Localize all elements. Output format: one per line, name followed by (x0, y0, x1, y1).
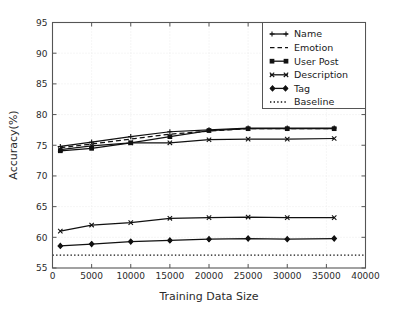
data-point-marker (284, 59, 288, 63)
y-tick-label: 80 (36, 110, 48, 120)
y-tick-label: 55 (36, 263, 47, 273)
x-tick-label: 15000 (156, 271, 185, 281)
legend-label: Tag (293, 83, 310, 94)
y-tick-label: 85 (36, 79, 47, 89)
chart-legend: NameEmotionUser PostDescriptionTagBaseli… (263, 23, 366, 109)
accuracy-vs-training-size-line-chart: 0500010000150002000025000300003500040000… (0, 0, 399, 312)
y-axis-tick-labels: 556065707580859095 (36, 18, 48, 274)
legend-label: Emotion (294, 42, 333, 53)
x-tick-label: 5000 (80, 271, 103, 281)
x-tick-label: 10000 (116, 271, 145, 281)
data-point-marker (207, 129, 211, 133)
y-tick-label: 75 (36, 141, 47, 151)
x-axis-tick-labels: 0500010000150002000025000300003500040000 (50, 271, 380, 281)
y-axis-title: Accuracy(%) (7, 110, 20, 179)
chart-figure: 0500010000150002000025000300003500040000… (0, 0, 399, 312)
x-tick-label: 20000 (195, 271, 224, 281)
data-point-marker (332, 127, 336, 131)
x-tick-label: 0 (50, 271, 56, 281)
legend-label: Name (294, 28, 322, 39)
x-tick-label: 40000 (351, 271, 380, 281)
legend-label: Description (294, 69, 348, 80)
x-tick-label: 35000 (312, 271, 341, 281)
y-tick-label: 60 (36, 233, 48, 243)
y-tick-label: 90 (36, 49, 48, 59)
data-point-marker (246, 127, 250, 131)
x-tick-label: 30000 (273, 271, 302, 281)
y-tick-label: 95 (36, 18, 47, 28)
y-tick-label: 65 (36, 202, 47, 212)
legend-label: User Post (294, 56, 339, 67)
data-point-marker (168, 135, 172, 139)
x-axis-title: Training Data Size (158, 290, 258, 303)
legend-label: Baseline (294, 96, 334, 107)
x-tick-label: 25000 (234, 271, 263, 281)
y-tick-label: 70 (36, 171, 48, 181)
data-point-marker (285, 127, 289, 131)
data-point-marker (270, 59, 274, 63)
